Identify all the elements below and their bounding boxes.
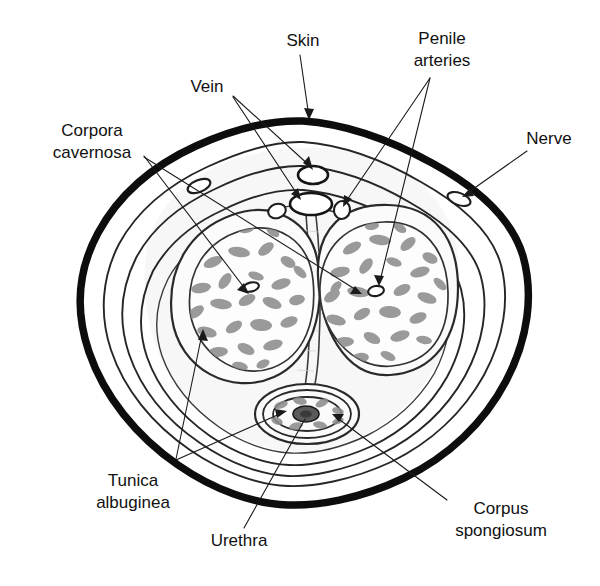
anatomical-diagram: Skin Penile arteries Vein Nerve Corpora … [0, 0, 600, 586]
label-corpus-spongiosum: Corpus spongiosum [455, 499, 547, 540]
label-urethra: Urethra [211, 531, 268, 550]
label-skin: Skin [286, 31, 319, 50]
leader-skin [300, 55, 314, 120]
label-vein: Vein [190, 77, 223, 96]
figure-canvas: Skin Penile arteries Vein Nerve Corpora … [0, 0, 600, 586]
label-nerve: Nerve [526, 129, 571, 148]
label-tunica-albuginea: Tunica albuginea [96, 471, 170, 512]
label-penile-arteries: Penile arteries [414, 29, 471, 70]
label-corpora-cavernosa: Corpora cavernosa [53, 121, 132, 162]
leader-nerve [462, 151, 527, 197]
svg-text:albuginea: albuginea [96, 493, 170, 512]
svg-text:Corpus: Corpus [474, 499, 529, 518]
svg-text:Tunica: Tunica [108, 471, 159, 490]
svg-text:spongiosum: spongiosum [455, 521, 547, 540]
svg-text:cavernosa: cavernosa [53, 143, 132, 162]
svg-text:Penile: Penile [418, 29, 465, 48]
svg-text:arteries: arteries [414, 51, 471, 70]
svg-text:Corpora: Corpora [61, 121, 123, 140]
superficial-dorsal-vein [298, 166, 328, 184]
